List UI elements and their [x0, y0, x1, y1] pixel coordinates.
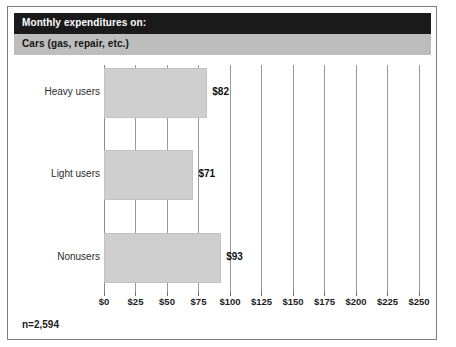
- bar-value-label: $82: [212, 86, 229, 97]
- gridline: [324, 65, 325, 292]
- gridline: [419, 65, 420, 292]
- bar: [104, 68, 207, 118]
- x-axis-tick-label: $250: [399, 296, 439, 307]
- category-label: Heavy users: [16, 86, 100, 97]
- bar: [104, 233, 221, 283]
- chart-figure: Monthly expenditures on: Cars (gas, repa…: [0, 0, 456, 347]
- bar-value-label: $71: [198, 168, 215, 179]
- gridline: [387, 65, 388, 292]
- gridline: [261, 65, 262, 292]
- plot-area: $0$25$50$75$100$125$150$175$200$225$250$…: [0, 0, 456, 347]
- category-label: Light users: [16, 168, 100, 179]
- sample-size-note: n=2,594: [22, 319, 59, 330]
- bar: [104, 150, 193, 200]
- bar-value-label: $93: [226, 251, 243, 262]
- gridline: [293, 65, 294, 292]
- category-label: Nonusers: [16, 251, 100, 262]
- gridline: [356, 65, 357, 292]
